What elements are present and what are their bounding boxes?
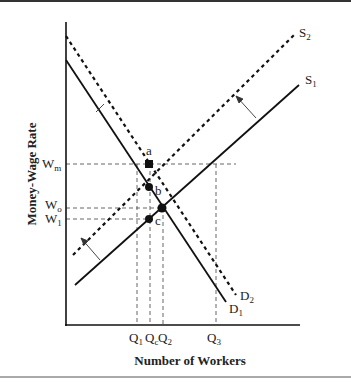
d1-curve bbox=[66, 60, 226, 302]
equilibrium-marker bbox=[158, 204, 167, 213]
point-a-label: a bbox=[146, 143, 152, 158]
labor-market-diagram: a b c S2 S1 D2 D1 Wm Wo W1 Q1 Qc Q2 Q3 N… bbox=[0, 0, 351, 386]
d2-label: D2 bbox=[240, 288, 254, 305]
s1-curve bbox=[75, 85, 299, 285]
q1-tick-label: Q1 bbox=[129, 330, 143, 347]
qc-tick-label: Qc bbox=[145, 330, 158, 347]
arrowhead-icon bbox=[81, 238, 88, 245]
point-b-marker bbox=[145, 183, 153, 191]
point-c-marker bbox=[145, 215, 153, 223]
q3-tick-label: Q3 bbox=[207, 330, 221, 347]
s2-curve bbox=[73, 35, 294, 255]
y-axis-title: Money-Wage Rate bbox=[24, 122, 39, 225]
shift-arrows bbox=[81, 96, 256, 260]
q2-tick-label: Q2 bbox=[158, 330, 172, 347]
x-axis-title: Number of Workers bbox=[134, 353, 245, 368]
s1-label: S1 bbox=[305, 72, 317, 89]
wm-tick-label: Wm bbox=[42, 156, 61, 173]
point-c-label: c bbox=[155, 213, 161, 228]
d1-label: D1 bbox=[229, 301, 243, 318]
point-b-label: b bbox=[155, 183, 162, 198]
point-a-marker bbox=[145, 160, 153, 168]
s2-label: S2 bbox=[299, 25, 311, 42]
